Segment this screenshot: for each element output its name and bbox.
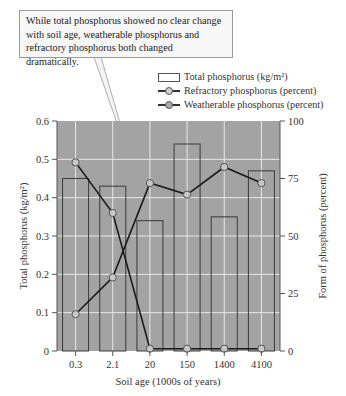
legend-label: Refractory phosphorus (percent) [184,84,316,98]
y2-tick-label: 0 [288,346,293,357]
legend-item-weatherable: Weatherable phosphorus (percent) [158,98,323,112]
y-tick-label: 0.6 [36,116,49,127]
x-tick-label: 0.3 [69,359,82,370]
callout-line: While total phosphorus showed no clear c… [26,14,226,28]
bar-swatch-icon [158,73,180,82]
data-point-marker [72,159,79,166]
legend-item-refractory: Refractory phosphorus (percent) [158,84,323,98]
legend-label: Weatherable phosphorus (percent) [184,98,323,112]
y-tick-label: 0.1 [36,307,49,318]
y-axis-title: Total phosphorus (kg/m²) [18,182,30,289]
callout-line: with soil age, weatherable phosphorus an… [26,28,226,42]
y2-tick-label: 100 [288,116,304,127]
data-point-marker [109,209,116,216]
y-tick-label: 0.5 [36,154,49,165]
data-point-marker [258,180,265,187]
line-marker-icon [158,86,180,96]
x-tick-label: 4100 [251,359,272,370]
x-tick-label: 2.1 [106,359,119,370]
data-point-marker [72,311,79,318]
y-tick-label: 0 [44,346,49,357]
y2-axis-title: Form of phosphorus (percent) [317,173,329,299]
x-tick-label: 150 [179,359,195,370]
x-tick-label: 20 [145,359,156,370]
data-point-marker [183,191,190,198]
y2-tick-label: 75 [288,173,299,184]
y-tick-label: 0.2 [36,269,49,280]
data-point-marker [146,180,153,187]
x-tick-label: 1400 [214,359,235,370]
data-point-marker [109,274,116,281]
line-marker-icon [158,100,180,110]
legend-label: Total phosphorus (kg/m²) [184,70,288,84]
y-tick-label: 0.4 [36,192,50,203]
callout-line: refractory phosphorus both changed drama… [26,41,226,68]
legend: Total phosphorus (kg/m²) Refractory phos… [158,70,323,112]
data-point-marker [221,163,228,170]
y2-tick-label: 25 [288,288,299,299]
y2-tick-label: 50 [288,231,299,242]
annotation-callout: While total phosphorus showed no clear c… [19,10,233,58]
y-tick-label: 0.3 [36,231,49,242]
legend-item-total: Total phosphorus (kg/m²) [158,70,323,84]
x-axis-title: Soil age (1000s of years) [116,376,221,388]
